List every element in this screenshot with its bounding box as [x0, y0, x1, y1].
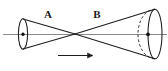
figure-container: A B [0, 0, 168, 71]
right-cone-center-dot [146, 32, 150, 36]
right-cone-upper-slant [75, 9, 155, 34]
label-b: B [93, 8, 101, 20]
left-cone-lower-slant [23, 34, 75, 49]
label-a: A [44, 8, 52, 20]
double-cone-figure: A B [0, 0, 168, 71]
direction-arrow-head [88, 53, 94, 58]
left-cone-upper-slant [23, 19, 75, 34]
left-cone-center-dot [21, 33, 24, 36]
